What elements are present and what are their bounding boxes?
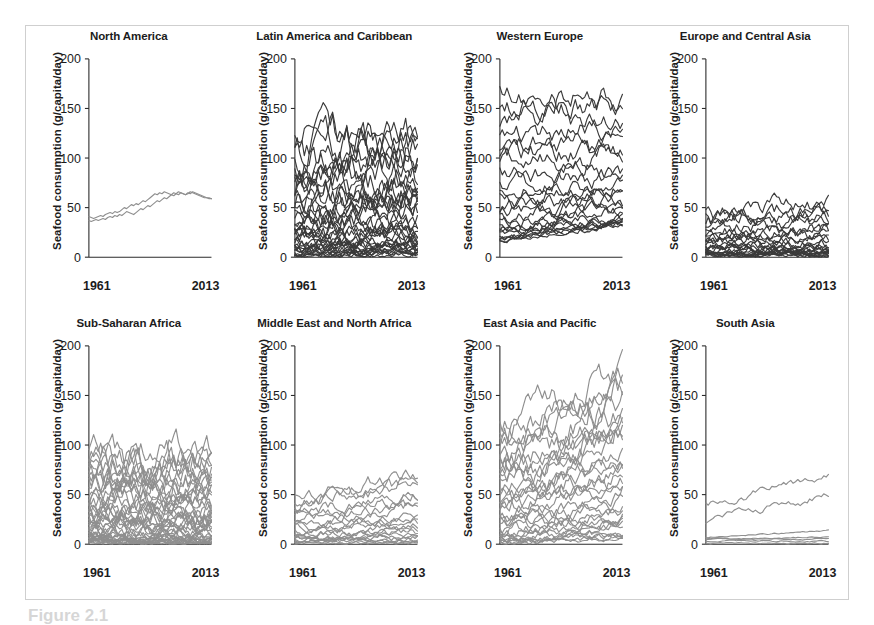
y-tick-label: 150 xyxy=(60,388,81,402)
y-tick-label: 0 xyxy=(279,537,286,551)
y-tick-label: 100 xyxy=(60,438,81,452)
series-line xyxy=(705,493,828,522)
y-tick-label: 150 xyxy=(266,388,287,402)
y-tick-label: 50 xyxy=(273,488,287,502)
y-tick-label: 50 xyxy=(67,488,81,502)
y-tick-label: 200 xyxy=(266,52,287,66)
y-tick-label: 0 xyxy=(74,537,81,551)
figure-caption: Figure 2.1 xyxy=(28,606,108,625)
series-line xyxy=(500,138,623,162)
y-tick-label: 200 xyxy=(60,339,81,353)
series-line xyxy=(500,193,623,217)
x-tick-label-start: 1961 xyxy=(700,566,728,580)
y-tick-label: 200 xyxy=(677,339,698,353)
plot-area: 05010015020019612013 xyxy=(437,313,643,600)
y-tick-label: 0 xyxy=(690,537,697,551)
y-tick-label: 150 xyxy=(677,102,698,116)
series-line xyxy=(294,479,417,513)
series-line xyxy=(89,192,212,222)
y-tick-label: 100 xyxy=(266,438,287,452)
x-tick-label-end: 2013 xyxy=(808,279,836,293)
x-tick-label-end: 2013 xyxy=(603,279,631,293)
y-tick-label: 200 xyxy=(471,339,492,353)
chart-panel-6: Middle East and North AfricaSeafood cons… xyxy=(232,313,438,600)
x-tick-label-end: 2013 xyxy=(397,566,425,580)
panel-grid: North AmericaSeafood consumption (g/capi… xyxy=(26,26,848,599)
y-tick-label: 100 xyxy=(677,438,698,452)
x-tick-label-end: 2013 xyxy=(808,566,836,580)
y-tick-label: 200 xyxy=(266,339,287,353)
plot-area: 05010015020019612013 xyxy=(26,313,232,600)
y-tick-label: 200 xyxy=(471,52,492,66)
chart-panel-1: North AmericaSeafood consumption (g/capi… xyxy=(26,26,232,313)
y-tick-label: 0 xyxy=(485,537,492,551)
y-tick-label: 50 xyxy=(478,488,492,502)
x-tick-label-start: 1961 xyxy=(494,279,522,293)
plot-area: 05010015020019612013 xyxy=(232,313,438,600)
chart-panel-3: Western EuropeSeafood consumption (g/cap… xyxy=(437,26,643,313)
y-tick-label: 100 xyxy=(60,152,81,166)
chart-panel-4: Europe and Central AsiaSeafood consumpti… xyxy=(643,26,849,313)
series-line xyxy=(89,192,212,219)
plot-area: 05010015020019612013 xyxy=(437,26,643,313)
y-tick-label: 100 xyxy=(471,438,492,452)
y-tick-label: 200 xyxy=(677,52,698,66)
y-tick-label: 50 xyxy=(67,201,81,215)
y-tick-label: 50 xyxy=(273,201,287,215)
series-line xyxy=(294,525,417,538)
y-tick-label: 150 xyxy=(471,388,492,402)
x-tick-label-start: 1961 xyxy=(289,566,317,580)
x-tick-label-start: 1961 xyxy=(83,566,111,580)
y-tick-label: 150 xyxy=(60,102,81,116)
y-tick-label: 50 xyxy=(684,201,698,215)
y-tick-label: 50 xyxy=(478,201,492,215)
series-line xyxy=(705,474,828,505)
y-tick-label: 50 xyxy=(684,488,698,502)
x-tick-label-start: 1961 xyxy=(83,279,111,293)
y-tick-label: 150 xyxy=(266,102,287,116)
y-tick-label: 200 xyxy=(60,52,81,66)
x-tick-label-start: 1961 xyxy=(289,279,317,293)
y-tick-label: 0 xyxy=(485,251,492,265)
x-tick-label-end: 2013 xyxy=(192,279,220,293)
plot-area: 05010015020019612013 xyxy=(643,313,849,600)
y-tick-label: 150 xyxy=(471,102,492,116)
series-line xyxy=(705,539,828,541)
plot-area: 05010015020019612013 xyxy=(232,26,438,313)
y-tick-label: 100 xyxy=(471,152,492,166)
y-tick-label: 0 xyxy=(690,251,697,265)
chart-panel-8: South AsiaSeafood consumption (g/capita/… xyxy=(643,313,849,600)
chart-panel-2: Latin America and CaribbeanSeafood consu… xyxy=(232,26,438,313)
chart-panel-5: Sub-Saharan AfricaSeafood consumption (g… xyxy=(26,313,232,600)
plot-area: 05010015020019612013 xyxy=(26,26,232,313)
plot-area: 05010015020019612013 xyxy=(643,26,849,313)
figure-frame: North AmericaSeafood consumption (g/capi… xyxy=(25,25,849,600)
y-tick-label: 100 xyxy=(266,152,287,166)
x-tick-label-start: 1961 xyxy=(494,566,522,580)
x-tick-label-end: 2013 xyxy=(397,279,425,293)
y-tick-label: 100 xyxy=(677,152,698,166)
x-tick-label-start: 1961 xyxy=(700,279,728,293)
chart-panel-7: East Asia and PacificSeafood consumption… xyxy=(437,313,643,600)
x-tick-label-end: 2013 xyxy=(603,566,631,580)
series-line xyxy=(500,87,623,115)
y-tick-label: 0 xyxy=(74,251,81,265)
y-tick-label: 0 xyxy=(279,251,286,265)
series-line xyxy=(500,456,623,495)
y-tick-label: 150 xyxy=(677,388,698,402)
x-tick-label-end: 2013 xyxy=(192,566,220,580)
